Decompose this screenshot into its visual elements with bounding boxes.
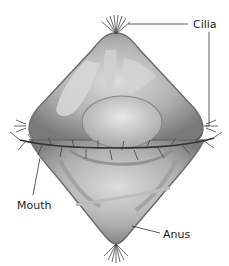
top-cilia-tuft [102, 15, 130, 34]
cilia-label: Cilia [193, 19, 217, 30]
bottom-cilia-tuft [104, 244, 128, 263]
anus-label: Anus [163, 229, 190, 240]
mouth-leader-line [33, 158, 40, 195]
cilia-leader-line-vertical [204, 32, 209, 126]
anus-leader-line [132, 226, 160, 233]
organism-illustration [0, 0, 229, 266]
left-cilia-tuft [14, 120, 26, 132]
mouth-label: Mouth [17, 200, 51, 211]
